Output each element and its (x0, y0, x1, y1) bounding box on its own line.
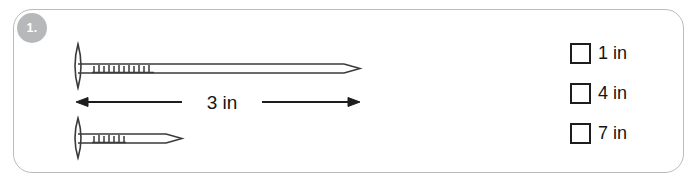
option-row-2[interactable]: 4 in (570, 80, 690, 106)
checkbox-option-3[interactable] (570, 123, 591, 144)
question-number-badge: 1. (17, 13, 47, 43)
option-label-1: 1 in (598, 44, 627, 62)
arrowhead-left (76, 98, 88, 107)
option-label-2: 4 in (598, 84, 627, 102)
checkbox-option-2[interactable] (570, 83, 591, 104)
answer-options-list: 1 in 4 in 7 in (570, 40, 690, 146)
long-nail-head (75, 44, 81, 88)
short-nail-knurl-ticks (94, 135, 124, 142)
question-card: 1. (13, 9, 684, 173)
option-label-3: 7 in (598, 124, 627, 142)
long-nail-knurl-ticks (94, 65, 149, 72)
short-nail (75, 118, 182, 158)
option-row-1[interactable]: 1 in (570, 40, 690, 66)
arrowhead-right (348, 98, 360, 107)
nail-figure-svg: 3 in (14, 10, 434, 185)
checkbox-option-1[interactable] (570, 43, 591, 64)
short-nail-head (75, 118, 81, 158)
nail-measurement-figure: 3 in (14, 10, 434, 185)
long-nail (75, 44, 360, 88)
option-row-3[interactable]: 7 in (570, 120, 690, 146)
dimension-label: 3 in (207, 92, 238, 113)
